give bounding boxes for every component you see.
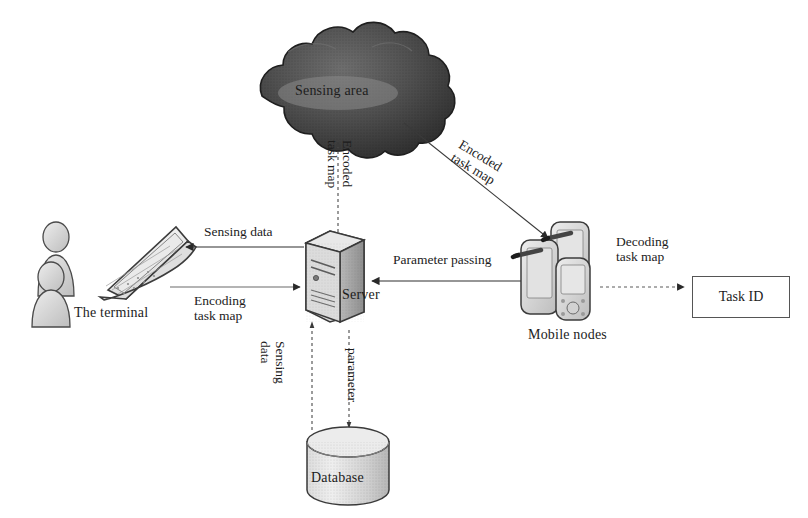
edge-label-line-2: data: [258, 341, 273, 384]
edge-label-line-2: task map: [194, 308, 246, 323]
diagram-canvas: Sensing area The terminal Server Mobile …: [0, 0, 808, 518]
edge-label-line-1: Decoding: [616, 234, 668, 249]
phone-front-icon: [556, 258, 590, 320]
label-sensing-area: Sensing area: [295, 83, 369, 99]
edge-label-encoded-task-map-vertical: Encoded task map: [325, 140, 355, 188]
label-database: Database: [311, 470, 364, 486]
edge-label-sensing-data-vertical: Sensing data: [258, 341, 288, 384]
label-mobile-nodes: Mobile nodes: [528, 327, 607, 343]
edge-label-line-2: task map: [325, 140, 340, 188]
edge-label-parameter-passing: Parameter passing: [393, 252, 492, 267]
icon-mobile-nodes: [513, 222, 590, 320]
edge-label-encoding-task-map: Encoding task map: [194, 293, 246, 323]
icon-users: [32, 222, 74, 327]
edge-label-parameter-vertical: parameter: [345, 348, 360, 402]
label-server: Server: [342, 287, 380, 303]
edge-label-line-1: Sensing: [273, 341, 288, 384]
edge-label-sensing-data: Sensing data: [204, 224, 273, 239]
task-id-label: Task ID: [719, 289, 764, 305]
icon-laptop-terminal: [100, 227, 196, 300]
edge-label-decoding-task-map: Decoding task map: [616, 234, 668, 264]
label-the-terminal: The terminal: [74, 305, 148, 321]
icon-database-cylinder: [307, 427, 389, 505]
edge-label-line-1: Encoding: [194, 293, 246, 308]
edge-label-line-1: Encoded: [340, 140, 355, 188]
icon-server-tower: [306, 231, 364, 322]
edge-cloud-to-mobile: [404, 123, 548, 238]
edge-label-line-2: task map: [616, 249, 668, 264]
task-id-box[interactable]: Task ID: [692, 276, 790, 318]
